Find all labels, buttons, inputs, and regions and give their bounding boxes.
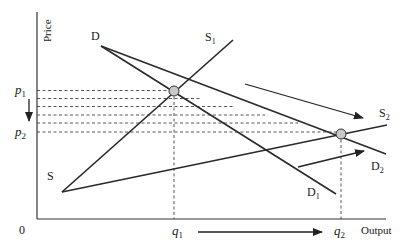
x-axis-label: Output — [361, 224, 392, 236]
label-q2: q2 — [334, 223, 345, 240]
label-q1: q1 — [172, 223, 183, 240]
label-s1: S1 — [205, 30, 216, 46]
label-d2: D2 — [371, 159, 384, 175]
supply-shift-arrow — [298, 151, 364, 167]
y-axis-label: Price — [41, 19, 53, 42]
label-p2: p2 — [14, 124, 26, 141]
label-d1: D1 — [307, 185, 320, 201]
label-s: S — [47, 169, 54, 183]
supply-demand-diagram: Price Output 0 D S S1 S2 D1 D2 p1 p2 q1 … — [0, 0, 402, 250]
equilibrium-point-2 — [336, 129, 346, 139]
price-dashed-lines — [37, 91, 341, 133]
origin-label: 0 — [19, 223, 25, 237]
demand-shift-arrow — [245, 84, 363, 118]
demand-curve-d1 — [101, 46, 336, 194]
equilibrium-point-1 — [169, 86, 179, 96]
label-d: D — [91, 29, 100, 43]
label-s2: S2 — [379, 106, 390, 122]
label-p1: p1 — [14, 82, 26, 99]
